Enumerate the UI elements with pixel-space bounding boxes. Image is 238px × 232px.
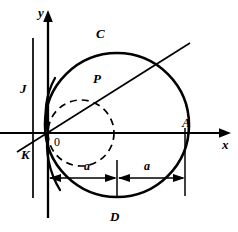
dimension-a2-arrow-right	[173, 174, 185, 182]
dimension-label-a-right: a	[144, 160, 150, 172]
diagonal-ray	[17, 43, 190, 152]
dimension-label-a-left: a	[84, 160, 90, 172]
dimension-arrow-a2	[118, 174, 185, 182]
y-axis-arrowhead	[43, 10, 53, 22]
point-label-p: P	[93, 72, 101, 85]
x-axis-label: x	[222, 138, 229, 151]
dimension-a2-arrow-left	[118, 174, 130, 182]
dimension-arrow-a1	[49, 174, 117, 182]
point-label-k: K	[21, 148, 30, 161]
point-label-c: C	[96, 27, 105, 40]
dimension-a1-arrow-right	[105, 174, 117, 182]
geometry-figure: y x 0 C D A J K P a a	[0, 0, 238, 232]
point-label-j: J	[20, 82, 27, 95]
point-label-a: A	[182, 116, 191, 129]
y-axis-label: y	[38, 6, 44, 19]
x-axis	[0, 128, 231, 138]
figure-canvas	[0, 0, 238, 232]
point-label-d: D	[110, 210, 119, 223]
origin-label: 0	[54, 136, 60, 148]
